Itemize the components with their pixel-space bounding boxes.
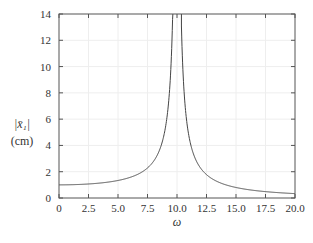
x-tick-label: 2.5: [82, 202, 96, 214]
y-tick-label: 2: [46, 166, 52, 178]
resonance-chart: 02.55.07.510.012.515.017.520.0 024681012…: [0, 0, 313, 243]
x-tick-labels: 02.55.07.510.012.515.017.520.0: [56, 202, 305, 214]
x-tick-label: 12.5: [197, 202, 217, 214]
y-tick-labels: 02468101214: [40, 8, 52, 204]
x-tick-label: 20.0: [285, 202, 305, 214]
x-tick-label: 5.0: [111, 202, 125, 214]
x-tick-label: 10.0: [167, 202, 187, 214]
y-tick-label: 4: [46, 139, 52, 151]
x-tick-label: 7.5: [141, 202, 155, 214]
x-axis-label: ω: [173, 215, 181, 229]
y-tick-label: 8: [46, 87, 52, 99]
y-tick-label: 6: [46, 113, 52, 125]
y-tick-label: 10: [40, 61, 52, 73]
x-tick-label: 15.0: [226, 202, 246, 214]
y-axis-label-unit: (cm): [11, 134, 34, 148]
x-tick-label: 17.5: [256, 202, 276, 214]
y-tick-label: 14: [40, 8, 52, 20]
grid-lines: [59, 14, 295, 198]
y-axis-label-symbol: |x̄₁|: [14, 117, 30, 131]
y-tick-label: 0: [46, 192, 52, 204]
y-tick-label: 12: [40, 34, 51, 46]
x-tick-label: 0: [56, 202, 62, 214]
